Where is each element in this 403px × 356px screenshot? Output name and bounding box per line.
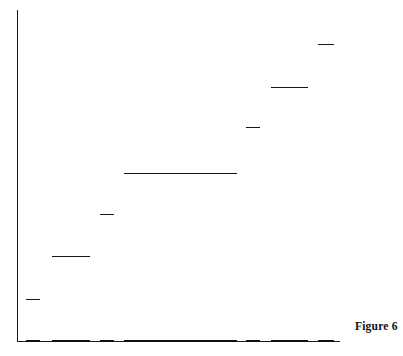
chart-axes [17, 10, 340, 342]
figure-caption: Figure 6 [355, 320, 398, 332]
chart-plot-area [0, 0, 403, 356]
chart-bar-tops [26, 45, 334, 300]
figure-container: Figure 6 [0, 0, 403, 356]
